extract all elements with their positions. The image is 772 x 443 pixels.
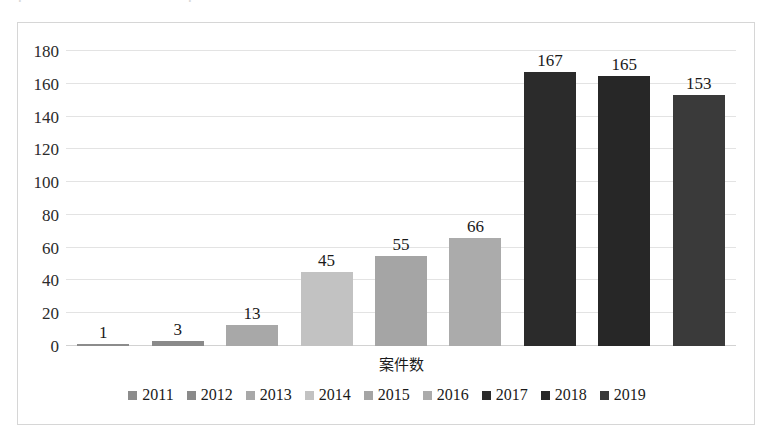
legend-label-2014: 2014 [319,387,351,403]
legend-label-2011: 2011 [142,387,173,403]
bar-value-label-2017: 167 [537,52,563,69]
legend-swatch-icon-2015 [364,391,373,400]
bar-value-label-2013: 13 [244,305,261,322]
chart-frame: 0204060801001201401601801313455566167165… [17,22,755,425]
legend-item-2013[interactable]: 2013 [246,387,292,403]
bar-value-label-2014: 45 [318,252,335,269]
legend-label-2017: 2017 [496,387,528,403]
legend-item-2018[interactable]: 2018 [541,387,587,403]
bar-value-label-2019: 153 [686,75,712,92]
plot-area: 0204060801001201401601801313455566167165… [66,51,736,346]
bar-2012[interactable]: 3 [152,341,204,346]
legend-label-2012: 2012 [201,387,233,403]
chart-legend: 201120122013201420152016201720182019 [18,387,756,403]
bar-2018[interactable]: 165 [598,76,650,346]
legend-item-2019[interactable]: 2019 [600,387,646,403]
legend-item-2015[interactable]: 2015 [364,387,410,403]
bar-2014[interactable]: 45 [301,272,353,346]
bar-value-label-2018: 165 [612,56,638,73]
legend-swatch-icon-2013 [246,391,255,400]
bar-value-label-2015: 55 [392,236,409,253]
bar-2019[interactable]: 153 [673,95,725,346]
y-axis-tick-100: 100 [34,174,60,191]
bar-value-label-2012: 3 [173,321,182,338]
scan-artifact-strip: ー ． ・ ・ ・ ・ 一 ・ ・ ・ ・ ． ・ ・ ・ ・ ・ [0,0,772,14]
legend-swatch-icon-2017 [482,391,491,400]
bar-value-label-2011: 1 [99,324,108,341]
y-axis-tick-80: 80 [42,206,59,223]
legend-swatch-icon-2019 [600,391,609,400]
legend-swatch-icon-2018 [541,391,550,400]
y-axis-tick-160: 160 [34,75,60,92]
y-axis-tick-0: 0 [51,338,60,355]
legend-swatch-icon-2012 [187,391,196,400]
legend-swatch-icon-2011 [128,391,137,400]
scan-artifact-text: ー ． ・ ・ ・ ・ 一 ・ ・ ・ ・ ． ・ ・ ・ ・ ・ [0,0,285,5]
bar-2015[interactable]: 55 [375,256,427,346]
bar-2017[interactable]: 167 [524,72,576,346]
legend-label-2016: 2016 [437,387,469,403]
legend-item-2014[interactable]: 2014 [305,387,351,403]
legend-item-2016[interactable]: 2016 [423,387,469,403]
bar-2011[interactable]: 1 [77,344,129,346]
legend-swatch-icon-2016 [423,391,432,400]
legend-label-2013: 2013 [260,387,292,403]
y-axis-tick-60: 60 [42,239,59,256]
gridline-180 [66,50,736,51]
bar-value-label-2016: 66 [467,218,484,235]
y-axis-tick-40: 40 [42,272,59,289]
bar-2016[interactable]: 66 [449,238,501,346]
legend-item-2012[interactable]: 2012 [187,387,233,403]
y-axis-tick-120: 120 [34,141,60,158]
legend-item-2017[interactable]: 2017 [482,387,528,403]
y-axis-tick-20: 20 [42,305,59,322]
legend-item-2011[interactable]: 2011 [128,387,173,403]
legend-label-2019: 2019 [614,387,646,403]
y-axis-tick-140: 140 [34,108,60,125]
y-axis-tick-180: 180 [34,43,60,60]
legend-swatch-icon-2014 [305,391,314,400]
bar-2013[interactable]: 13 [226,325,278,346]
legend-label-2015: 2015 [378,387,410,403]
legend-label-2018: 2018 [555,387,587,403]
x-axis-title: 案件数 [66,353,736,374]
